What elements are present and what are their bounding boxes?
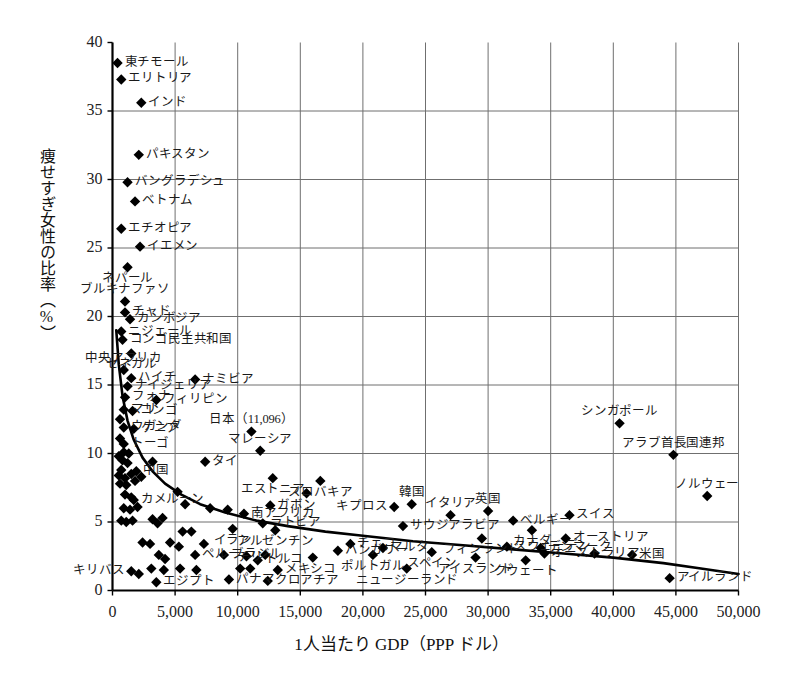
data-point-marker bbox=[175, 563, 185, 573]
point-label: ベルギー bbox=[520, 514, 571, 527]
x-tick-label: 50,000 bbox=[699, 603, 779, 621]
point-label: カメルーン bbox=[141, 493, 204, 506]
data-point-marker bbox=[668, 450, 678, 460]
y-tick-label: 30 bbox=[67, 170, 103, 188]
point-label: スイス bbox=[576, 508, 614, 521]
data-point-marker bbox=[119, 404, 129, 414]
point-label: ニュージーランド bbox=[356, 574, 458, 587]
axis-tick-marks bbox=[108, 43, 739, 596]
point-label: オーストラリア bbox=[551, 547, 640, 560]
y-axis-title: 痩せすぎ女性の比率（%） bbox=[22, 148, 56, 341]
point-label: ブルキナファソ bbox=[80, 283, 170, 296]
point-label: インド bbox=[148, 96, 186, 109]
data-point-marker bbox=[116, 224, 126, 234]
data-point-marker bbox=[614, 418, 624, 428]
data-point-marker bbox=[664, 573, 674, 583]
data-points bbox=[112, 58, 712, 588]
data-point-marker bbox=[190, 550, 200, 560]
point-label: エリトリア bbox=[128, 72, 192, 85]
scatter-chart: 0510152025303540 05,00010,00015,00020,00… bbox=[0, 0, 803, 680]
y-tick-label: 0 bbox=[67, 581, 103, 599]
point-label: エチオピア bbox=[128, 222, 192, 235]
data-point-marker bbox=[112, 58, 122, 68]
data-point-marker bbox=[702, 491, 712, 501]
point-label: タイ bbox=[212, 455, 238, 468]
data-point-marker bbox=[205, 503, 215, 513]
data-point-marker bbox=[165, 537, 175, 547]
point-label: チリ bbox=[237, 551, 263, 564]
data-point-marker bbox=[130, 196, 140, 206]
point-label: ノルウェー bbox=[675, 478, 739, 491]
point-label: パキスタン bbox=[146, 148, 210, 161]
x-axis-title: 1人当たり GDP（PPP ドル） bbox=[0, 630, 803, 655]
data-point-marker bbox=[224, 574, 234, 584]
data-point-marker bbox=[508, 515, 518, 525]
data-point-marker bbox=[117, 335, 127, 345]
point-label: キプロス bbox=[336, 500, 387, 513]
point-label: 米国 bbox=[639, 548, 665, 561]
y-tick-label: 40 bbox=[67, 33, 103, 51]
point-label: キリバス bbox=[73, 564, 124, 577]
y-tick-label: 35 bbox=[67, 101, 103, 119]
y-tick-label: 5 bbox=[67, 512, 103, 530]
point-label: ベトナム bbox=[142, 194, 193, 207]
point-label: 東チモール bbox=[125, 56, 189, 69]
point-label: ラトビア bbox=[270, 516, 321, 529]
point-label: 中央アフリカ bbox=[85, 352, 162, 365]
y-tick-label: 20 bbox=[67, 307, 103, 325]
point-label: ケニア bbox=[141, 422, 179, 435]
point-label: クロアチア bbox=[275, 574, 339, 587]
y-tick-label: 15 bbox=[67, 375, 103, 393]
data-point-marker bbox=[122, 177, 132, 187]
point-label: アラブ首長国連邦 bbox=[622, 437, 724, 450]
point-label: フィンランド bbox=[443, 543, 520, 556]
point-label: シンガポール bbox=[581, 405, 658, 418]
data-point-marker bbox=[116, 74, 126, 84]
data-point-marker bbox=[186, 526, 196, 536]
data-point-marker bbox=[135, 241, 145, 251]
annotation-label: 日本（11,096） bbox=[209, 413, 293, 426]
data-point-marker bbox=[407, 499, 417, 509]
data-point-marker bbox=[136, 98, 146, 108]
point-label: クウェート bbox=[494, 565, 558, 578]
point-label: コンゴ民主共和国 bbox=[130, 333, 232, 346]
data-point-marker bbox=[483, 506, 493, 516]
point-label: ポルトガル bbox=[341, 560, 405, 573]
point-label: エジプト bbox=[163, 575, 214, 588]
point-label: 韓国 bbox=[399, 486, 425, 499]
point-label: パナマ bbox=[236, 573, 274, 586]
y-tick-label: 25 bbox=[67, 238, 103, 256]
point-label: 英国 bbox=[475, 493, 501, 506]
point-label: トーゴ bbox=[131, 437, 169, 450]
data-point-marker bbox=[200, 457, 210, 467]
data-point-marker bbox=[151, 577, 161, 587]
data-point-marker bbox=[137, 537, 147, 547]
data-point-marker bbox=[333, 546, 343, 556]
data-point-marker bbox=[255, 446, 265, 456]
point-label: イエメン bbox=[147, 240, 198, 253]
point-label: アイルランド bbox=[677, 571, 753, 584]
data-point-marker bbox=[389, 502, 399, 512]
point-label: マレーシア bbox=[228, 433, 292, 446]
data-point-marker bbox=[146, 563, 156, 573]
point-label: マルタ bbox=[390, 541, 428, 554]
point-label: 中国 bbox=[143, 464, 169, 477]
point-label: バングラデシュ bbox=[135, 175, 226, 188]
point-label: イタリア bbox=[425, 497, 476, 510]
point-label: コンゴ bbox=[140, 404, 178, 417]
data-point-marker bbox=[134, 150, 144, 160]
point-label: サウジアラビア bbox=[410, 519, 500, 532]
y-tick-label: 10 bbox=[67, 444, 103, 462]
data-point-marker bbox=[145, 539, 155, 549]
point-label: スロバキア bbox=[288, 486, 352, 499]
data-point-marker bbox=[120, 296, 130, 306]
